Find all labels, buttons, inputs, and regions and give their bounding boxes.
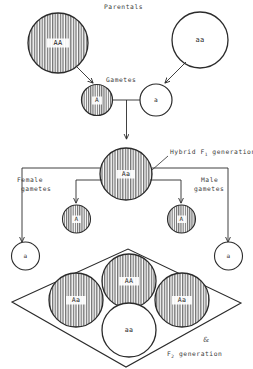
hybrid-f1-cell: Aa xyxy=(100,148,152,200)
bracket-female-dominant xyxy=(76,180,102,203)
male-gamete-recessive-genotype: a xyxy=(226,252,230,259)
female-gametes-label: Female gametes xyxy=(17,176,51,193)
f2-homozygous-recessive-genotype: aa xyxy=(125,326,134,334)
male-gametes-line2: gametes xyxy=(194,185,224,192)
female-gametes-line1: Female xyxy=(17,176,43,183)
gametes-label: Gametes xyxy=(106,76,136,85)
parental-dominant-cell: AA xyxy=(28,13,88,73)
male-gamete-dominant-cell: A xyxy=(168,205,196,233)
male-gametes-label: Male gametes xyxy=(194,176,224,193)
f2-homozygous-recessive-cell: aa xyxy=(102,303,156,357)
gamete-recessive-genotype: a xyxy=(154,96,158,103)
female-gamete-recessive-genotype: a xyxy=(23,252,27,259)
gamete-dominant-genotype: A xyxy=(95,96,99,103)
f2-heterozygous-right-cell: Aa xyxy=(155,273,209,327)
parental-recessive-cell: aa xyxy=(172,12,228,68)
punnett-inheritance-diagram: AA aa A a Aa xyxy=(0,0,253,369)
male-gamete-recessive-cell: a xyxy=(215,242,243,270)
hybrid-f1-label-tail: generation xyxy=(208,148,253,155)
hybrid-f1-label: Hybrid F1 generation xyxy=(170,148,253,160)
parental-dominant-genotype: AA xyxy=(53,39,63,47)
parentals-label: Parentals xyxy=(104,3,143,12)
arrow-parent-recessive-to-gamete xyxy=(165,62,186,83)
gamete-recessive-cell: a xyxy=(140,84,172,116)
female-gamete-dominant-cell: A xyxy=(63,205,91,233)
f2-generation-label-tail: generation xyxy=(175,350,223,357)
ampersand-mark: & xyxy=(203,336,209,344)
arrow-parent-dominant-to-gamete xyxy=(76,66,93,83)
hybrid-f1-label-text: Hybrid F xyxy=(170,148,205,155)
male-gametes-line1: Male xyxy=(201,176,218,185)
male-gamete-dominant-genotype: A xyxy=(179,215,183,222)
gamete-dominant-cell: A xyxy=(82,85,113,116)
f2-generation-label: F2 generation xyxy=(167,350,222,362)
parental-recessive-genotype: aa xyxy=(195,36,204,44)
bracket-male-dominant xyxy=(150,180,181,203)
female-gamete-recessive-cell: a xyxy=(12,242,40,270)
f2-heterozygous-left-cell: Aa xyxy=(49,273,103,327)
female-gamete-dominant-genotype: A xyxy=(74,215,78,222)
f2-heterozygous-left-genotype: Aa xyxy=(72,296,81,304)
f2-homozygous-dominant-genotype: AA xyxy=(125,277,134,285)
female-gametes-line2: gametes xyxy=(21,185,51,194)
f2-homozygous-dominant-cell: AA xyxy=(102,254,156,308)
f2-heterozygous-right-genotype: Aa xyxy=(178,296,187,304)
hybrid-f1-genotype: Aa xyxy=(122,170,131,178)
